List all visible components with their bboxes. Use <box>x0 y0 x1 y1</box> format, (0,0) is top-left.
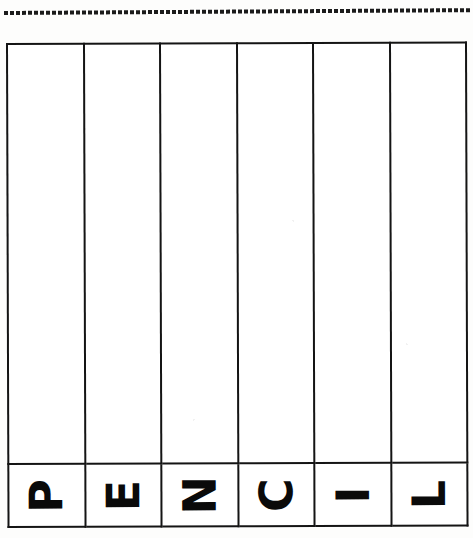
guide-dot <box>4 11 8 15</box>
guide-dot <box>298 9 302 13</box>
guide-dot <box>262 9 266 13</box>
grid-cell-letter-3[interactable]: N <box>161 463 238 526</box>
guide-dot <box>244 10 248 14</box>
guide-dot <box>454 8 458 12</box>
grid-cell-blank-2[interactable] <box>84 44 162 464</box>
letter-n: N <box>177 476 223 515</box>
guide-dot <box>214 10 218 14</box>
guide-dot <box>10 11 14 15</box>
worksheet-page: P E N C I L <box>0 0 473 538</box>
guide-dot <box>346 9 350 13</box>
guide-dot <box>418 8 422 12</box>
guide-dot <box>382 9 386 13</box>
guide-dot <box>160 10 164 14</box>
guide-dot <box>250 9 254 13</box>
guide-dot <box>46 11 50 15</box>
guide-dot <box>82 10 86 14</box>
guide-dot <box>184 10 188 14</box>
guide-dot <box>34 11 38 15</box>
guide-dot <box>316 9 320 13</box>
guide-dot <box>28 11 32 15</box>
dotted-tracing-line <box>4 7 471 16</box>
guide-dot <box>436 8 440 12</box>
guide-dot <box>70 11 74 15</box>
grid-cell-letter-1[interactable]: P <box>8 464 85 527</box>
guide-dot <box>220 10 224 14</box>
table-row-letters: P E N C I L <box>8 463 467 527</box>
guide-dot <box>376 9 380 13</box>
table-row-blank <box>7 43 467 464</box>
guide-dot <box>190 10 194 14</box>
guide-dot <box>406 9 410 13</box>
guide-dot <box>268 9 272 13</box>
grid-cell-letter-5[interactable]: I <box>314 463 391 526</box>
letter-l: L <box>406 479 452 508</box>
guide-dot <box>178 10 182 14</box>
guide-dot <box>154 10 158 14</box>
guide-dot <box>106 10 110 14</box>
guide-dot <box>370 9 374 13</box>
guide-dot <box>112 10 116 14</box>
guide-dot <box>328 9 332 13</box>
guide-dot <box>136 10 140 14</box>
guide-dot <box>256 9 260 13</box>
guide-dot <box>466 8 470 12</box>
guide-dot <box>196 10 200 14</box>
letter-i: I <box>330 486 376 503</box>
grid-cell-blank-4[interactable] <box>237 43 315 463</box>
guide-dot <box>64 11 68 15</box>
guide-dot <box>130 10 134 14</box>
guide-dot <box>172 10 176 14</box>
guide-dot <box>412 8 416 12</box>
grid-cell-letter-4[interactable]: C <box>238 463 315 526</box>
guide-dot <box>304 9 308 13</box>
guide-dot <box>40 11 44 15</box>
guide-dot <box>124 10 128 14</box>
guide-dot <box>280 9 284 13</box>
letter-grid: P E N C I L <box>6 42 469 528</box>
grid-cell-letter-2[interactable]: E <box>85 464 162 527</box>
guide-dot <box>358 9 362 13</box>
guide-dot <box>448 8 452 12</box>
guide-dot <box>430 8 434 12</box>
guide-dot <box>238 10 242 14</box>
guide-dot <box>22 11 26 15</box>
guide-dot <box>88 10 92 14</box>
letter-e: E <box>100 479 146 511</box>
guide-dot <box>226 10 230 14</box>
grid-cell-blank-6[interactable] <box>390 43 468 463</box>
guide-dot <box>388 9 392 13</box>
guide-dot <box>58 11 62 15</box>
guide-dot <box>208 10 212 14</box>
guide-dot <box>340 9 344 13</box>
guide-dot <box>52 11 56 15</box>
guide-dot <box>334 9 338 13</box>
grid-cell-blank-3[interactable] <box>160 43 238 463</box>
guide-dot <box>166 10 170 14</box>
letter-grid-container: P E N C I L <box>6 42 469 524</box>
guide-dot <box>424 8 428 12</box>
guide-dot <box>394 9 398 13</box>
grid-cell-letter-6[interactable]: L <box>391 463 468 526</box>
guide-dot <box>142 10 146 14</box>
guide-dot <box>148 10 152 14</box>
guide-dot <box>76 11 80 15</box>
guide-dot <box>16 11 20 15</box>
guide-dot <box>274 9 278 13</box>
guide-dot <box>286 9 290 13</box>
letter-c: C <box>253 478 299 512</box>
guide-dot <box>118 10 122 14</box>
guide-dot <box>352 9 356 13</box>
grid-cell-blank-1[interactable] <box>7 44 85 464</box>
guide-dot <box>292 9 296 13</box>
guide-dot <box>100 10 104 14</box>
guide-dot <box>94 10 98 14</box>
guide-dot <box>442 8 446 12</box>
grid-cell-blank-5[interactable] <box>313 43 391 463</box>
guide-dot <box>202 10 206 14</box>
guide-dot <box>232 10 236 14</box>
guide-dot <box>400 9 404 13</box>
guide-dot <box>364 9 368 13</box>
guide-dot <box>322 9 326 13</box>
letter-p: P <box>24 478 70 512</box>
